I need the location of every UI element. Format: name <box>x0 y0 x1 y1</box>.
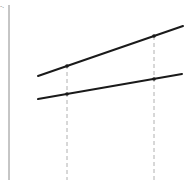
y-axis-label: -. <box>0 3 4 10</box>
lower-line <box>38 74 182 99</box>
upper-right-point <box>152 34 156 38</box>
diagram-canvas <box>0 0 185 180</box>
diagram-figure: -. <box>0 0 185 180</box>
lower-right-point <box>152 77 156 81</box>
lower-left-point <box>65 92 69 96</box>
upper-line <box>38 26 183 76</box>
upper-left-point <box>65 64 69 68</box>
